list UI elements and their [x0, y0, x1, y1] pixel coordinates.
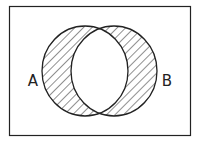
set-b-label: B: [162, 72, 172, 90]
set-a-label: A: [28, 72, 39, 90]
venn-diagram: A B: [0, 0, 200, 145]
